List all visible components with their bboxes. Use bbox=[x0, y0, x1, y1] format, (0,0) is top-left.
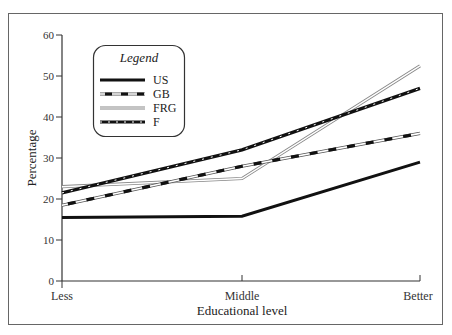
legend-label-us: US bbox=[153, 73, 168, 87]
legend-label-gb: GB bbox=[153, 87, 170, 101]
y-tick-30: 30 bbox=[43, 152, 55, 164]
series-us bbox=[62, 162, 420, 217]
y-tick-10: 10 bbox=[43, 234, 55, 246]
y-axis: 60 50 40 30 20 10 0 bbox=[43, 29, 62, 287]
y-tick-40: 40 bbox=[43, 111, 55, 123]
legend-title: Legend bbox=[119, 50, 159, 65]
y-axis-label: Percentage bbox=[24, 129, 39, 186]
x-tick-middle: Middle bbox=[225, 289, 260, 303]
x-tick-better: Better bbox=[403, 289, 432, 303]
legend-label-frg: FRG bbox=[153, 101, 177, 115]
x-axis-label: Educational level bbox=[197, 303, 288, 318]
x-axis: Less Middle Better bbox=[51, 275, 433, 303]
legend-label-f: F bbox=[153, 115, 160, 129]
y-tick-60: 60 bbox=[43, 29, 55, 41]
series-gb bbox=[62, 133, 420, 205]
x-tick-less: Less bbox=[51, 289, 73, 303]
y-tick-0: 0 bbox=[49, 275, 55, 287]
y-tick-50: 50 bbox=[43, 70, 55, 82]
line-chart: 60 50 40 30 20 10 0 Percentage Less Midd… bbox=[0, 0, 452, 335]
legend: Legend US GB FRG F bbox=[94, 46, 185, 137]
y-tick-20: 20 bbox=[43, 193, 55, 205]
